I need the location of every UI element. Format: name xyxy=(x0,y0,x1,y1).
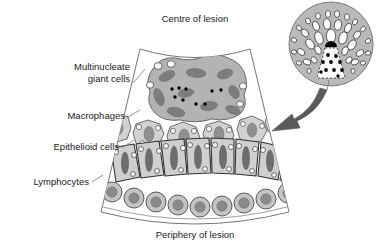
giant-cells-label-line1: Multinucleate xyxy=(74,61,130,72)
epithelioid-cell xyxy=(136,141,164,178)
lymphocyte xyxy=(278,183,298,203)
epithelioid-cell xyxy=(186,138,211,174)
multinucleate-giant-cell xyxy=(146,55,246,122)
lymphocyte xyxy=(190,197,210,217)
macrophages-label: Macrophages xyxy=(67,110,125,121)
epithelioid-cell xyxy=(161,139,187,176)
lymphocyte xyxy=(102,182,122,202)
epithelioid-cells-label: Epithelioid cells xyxy=(54,141,120,152)
lymphocyte xyxy=(294,175,313,194)
epithelioid-cell xyxy=(211,138,234,174)
giant-cells-label-line2: giant cells xyxy=(88,73,130,84)
epithelioid-cell xyxy=(280,147,300,184)
periphery-of-lesion-label: Periphery of lesion xyxy=(156,229,235,240)
epithelioid-cell xyxy=(258,142,283,180)
granuloma-inset xyxy=(289,2,373,86)
epithelioid-cell xyxy=(235,139,259,176)
figure-canvas: Centre of lesion Multinucleate giant cel… xyxy=(0,0,390,246)
lymphocyte xyxy=(146,192,166,212)
lymphocyte xyxy=(124,188,144,208)
pointer-arrow xyxy=(272,88,327,131)
granuloma-diagram: Centre of lesion Multinucleate giant cel… xyxy=(0,0,390,246)
lymphocyte xyxy=(212,196,232,216)
centre-of-lesion-label: Centre of lesion xyxy=(162,13,229,24)
lymphocytes-label: Lymphocytes xyxy=(33,176,89,187)
lymphocyte xyxy=(234,193,254,213)
lymphocyte xyxy=(168,195,188,215)
lymphocyte xyxy=(256,189,276,209)
